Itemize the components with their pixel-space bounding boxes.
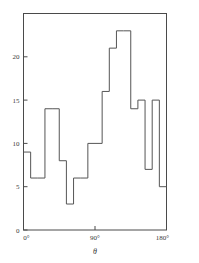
x-tick-label-2: 180° (156, 234, 170, 242)
histogram-step-line (24, 31, 167, 204)
y-tick-label-20: 20 (13, 53, 21, 61)
y-axis-tick-labels: 05101520 (13, 53, 21, 234)
angular-distribution-chart: 05101520 0°90°180° θ (0, 0, 199, 263)
x-tick-label-1: 90° (90, 234, 100, 242)
x-tick-label-0: 0° (23, 234, 30, 242)
y-tick-label-5: 5 (16, 183, 20, 191)
x-axis-ticks (24, 226, 167, 230)
x-axis-tick-labels: 0°90°180° (23, 234, 169, 242)
y-axis-ticks (24, 57, 28, 230)
histogram-figure: 05101520 0°90°180° θ (0, 0, 199, 263)
y-tick-label-15: 15 (13, 97, 21, 105)
y-tick-label-0: 0 (16, 227, 20, 235)
y-tick-label-10: 10 (13, 140, 21, 148)
x-axis-title: θ (93, 247, 97, 256)
